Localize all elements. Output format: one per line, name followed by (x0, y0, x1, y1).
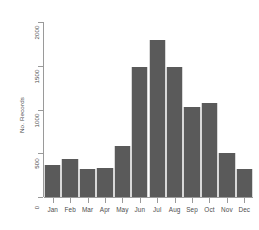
x-tick-mark (88, 198, 89, 203)
bar-aug (166, 67, 183, 197)
y-tick-label: 1500 (33, 63, 40, 89)
x-tick-mark (244, 198, 245, 203)
x-tick-mark (122, 198, 123, 203)
y-tick-label: 500 (33, 151, 40, 177)
y-tick-label: 2000 (33, 20, 40, 46)
y-tick-label: 1000 (33, 107, 40, 133)
bar-jan (44, 165, 61, 197)
x-tick-mark (227, 198, 228, 203)
y-tick-label: 0 (33, 195, 40, 221)
x-tick-label-dec: Dec (232, 206, 256, 213)
bar-chart: No. Records 0500100015002000 JanFebMarAp… (0, 0, 259, 230)
bar-dec (236, 169, 253, 197)
x-tick-mark (70, 198, 71, 203)
bar-mar (79, 169, 96, 197)
bar-nov (218, 153, 235, 197)
x-tick-mark (105, 198, 106, 203)
bar-sep (183, 107, 200, 197)
x-axis-line (44, 197, 253, 198)
y-axis-title: No. Records (14, 0, 28, 230)
bar-may (114, 146, 131, 197)
x-tick-mark (140, 198, 141, 203)
x-tick-mark (175, 198, 176, 203)
x-tick-mark (157, 198, 158, 203)
bar-feb (61, 159, 78, 198)
bar-oct (201, 103, 218, 198)
x-tick-mark (53, 198, 54, 203)
bar-jun (131, 67, 148, 197)
x-tick-mark (209, 198, 210, 203)
bar-jul (149, 40, 166, 198)
x-tick-mark (192, 198, 193, 203)
bar-apr (96, 168, 113, 197)
